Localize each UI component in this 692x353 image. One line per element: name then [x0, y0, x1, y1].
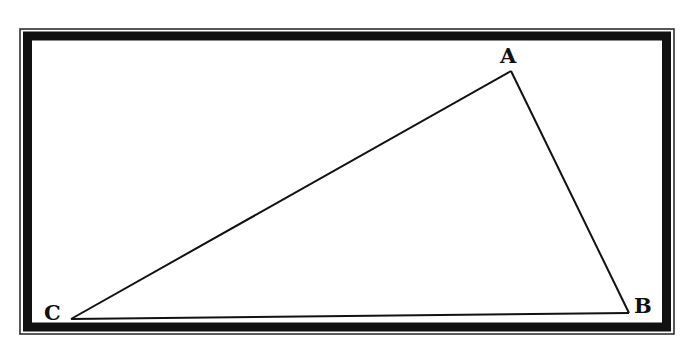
- vertex-label-a: A: [499, 43, 517, 68]
- triangle: [71, 71, 629, 319]
- frame: [20, 29, 674, 334]
- edge-ca: [71, 71, 511, 319]
- frame-thick-border: [28, 36, 667, 327]
- edge-ab: [511, 71, 629, 313]
- vertex-label-b: B: [634, 293, 652, 318]
- edge-bc: [71, 313, 629, 319]
- vertex-label-c: C: [44, 300, 61, 325]
- frame-outer-line: [20, 29, 674, 334]
- triangle-diagram: A B C: [0, 0, 692, 353]
